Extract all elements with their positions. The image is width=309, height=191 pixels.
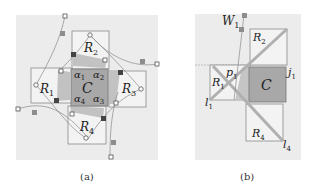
marker-circle [139,87,143,91]
panel-b: W1 R2 R1 p1 j1 l1 R4 l4 C (b) [195,13,301,182]
marker-small-square [114,101,118,105]
marker-gray-square [111,140,116,145]
marker-gray-square [60,31,65,36]
marker-dark-square [71,52,76,57]
marker-gray-square [140,59,145,64]
figure-canvas: R2 R1 R3 R4 C α1 α2 α3 α4 (a) W1 R2 R [0,0,309,191]
marker-small-square [70,112,74,116]
caption-b: (b) [240,171,254,182]
marker-open-square [63,14,67,18]
marker-gray-square [242,13,247,18]
marker-circle [34,83,38,87]
marker-gray-square [32,110,37,115]
marker-dark-square [118,70,123,75]
marker-small-square [103,58,107,62]
wedge-left [57,70,70,101]
caption-a: (a) [80,171,94,182]
marker-open-square [109,155,113,159]
marker-dark-square [54,98,59,103]
panel-a: R2 R1 R3 R4 C α1 α2 α3 α4 (a) [16,14,159,182]
marker-open-square [16,107,20,111]
label-center-c: C [82,80,93,96]
marker-small-square [59,69,63,73]
marker-gray-square [239,27,244,32]
marker-circle [84,136,88,140]
marker-circle [88,33,92,37]
label-center-c-b: C [261,77,272,93]
marker-open-square [155,62,159,66]
marker-dark-square [101,116,106,121]
